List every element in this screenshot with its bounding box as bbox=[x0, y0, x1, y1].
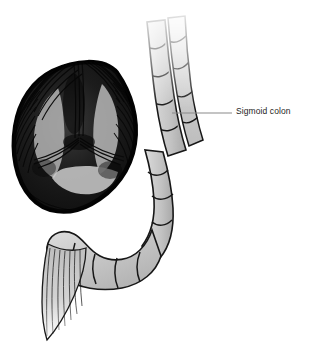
sigmoid-colon-diagram bbox=[0, 0, 309, 361]
annotation-label-sigmoid-colon: Sigmoid colon bbox=[236, 107, 291, 116]
